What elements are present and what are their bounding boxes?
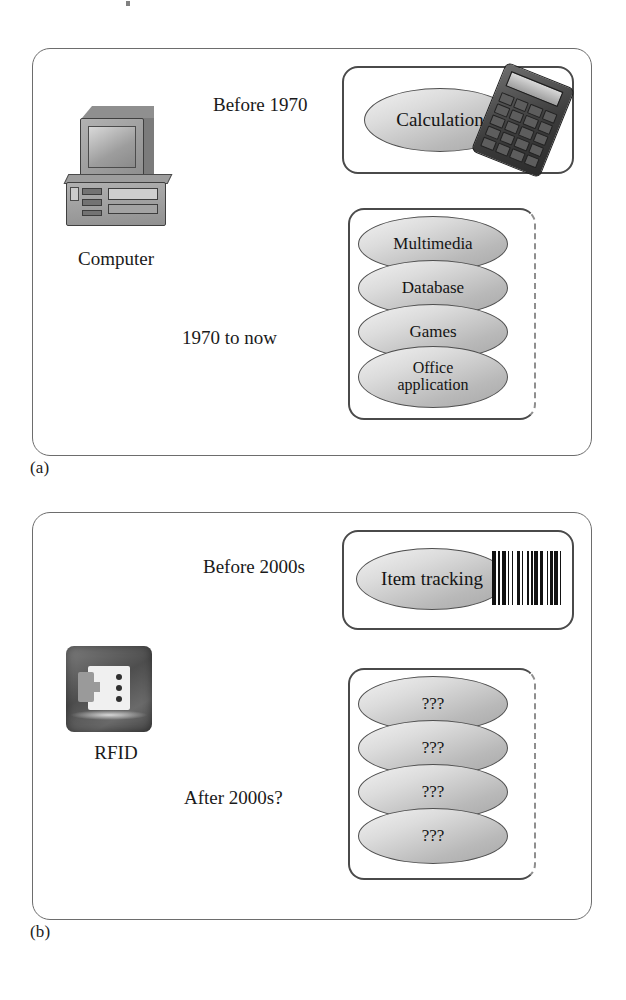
desktop-computer-icon (56, 98, 180, 244)
arrow-label-before-1970: Before 1970 (213, 94, 307, 116)
figure-root: Computer Before 1970 1970 to now Calcula… (0, 0, 626, 1000)
panel-caption-a: (a) (30, 458, 49, 478)
ellipse-item-tracking: Item tracking (356, 548, 508, 610)
arrow-label-1970-to-now: 1970 to now (182, 327, 277, 349)
ellipse-office-application: Office application (358, 346, 508, 408)
ellipse-unknown-4: ??? (358, 808, 508, 864)
box-unknown-applications: ??? ??? ??? ??? (348, 668, 536, 880)
box-applications: Multimedia Database Games Office applica… (348, 208, 536, 420)
ellipse-stack-applications: Multimedia Database Games Office applica… (350, 210, 534, 418)
arrow-label-after-2000s: After 2000s? (184, 787, 283, 809)
panel-caption-b: (b) (30, 922, 50, 942)
source-label-computer: Computer (56, 248, 176, 270)
scan-artifact-speck (126, 1, 130, 6)
rfid-tag-icon (66, 646, 152, 732)
source-label-rfid: RFID (66, 742, 166, 764)
ellipse-office-line1: Office (413, 359, 454, 376)
arrow-label-before-2000s: Before 2000s (203, 556, 305, 578)
ellipse-office-line2: application (397, 376, 468, 393)
ellipse-stack-unknown: ??? ??? ??? ??? (350, 670, 534, 878)
barcode-icon (492, 551, 564, 605)
